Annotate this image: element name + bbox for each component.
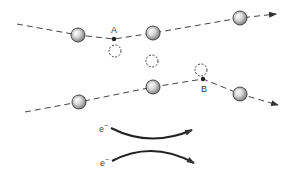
label-a: A	[111, 25, 117, 35]
scatter-point-b	[201, 77, 205, 81]
atom	[146, 26, 160, 40]
electron-arrow-2: e−	[100, 151, 194, 168]
atom	[233, 11, 247, 25]
vacancy	[109, 45, 121, 57]
svg-text:e−: e−	[99, 122, 108, 134]
atom	[233, 87, 247, 101]
vacancy	[146, 55, 158, 67]
label-b: B	[201, 84, 207, 94]
atom	[72, 95, 86, 109]
electron-charge: −	[105, 156, 109, 163]
scatter-point-a	[112, 37, 116, 41]
svg-text:e−: e−	[100, 156, 109, 168]
vacancy	[195, 64, 207, 76]
electron-scattering-diagram: A B e− e−	[0, 0, 295, 174]
electron-arrow-1: e−	[99, 122, 192, 139]
electron-charge: −	[104, 122, 108, 129]
atom	[71, 28, 85, 42]
atom	[146, 80, 160, 94]
